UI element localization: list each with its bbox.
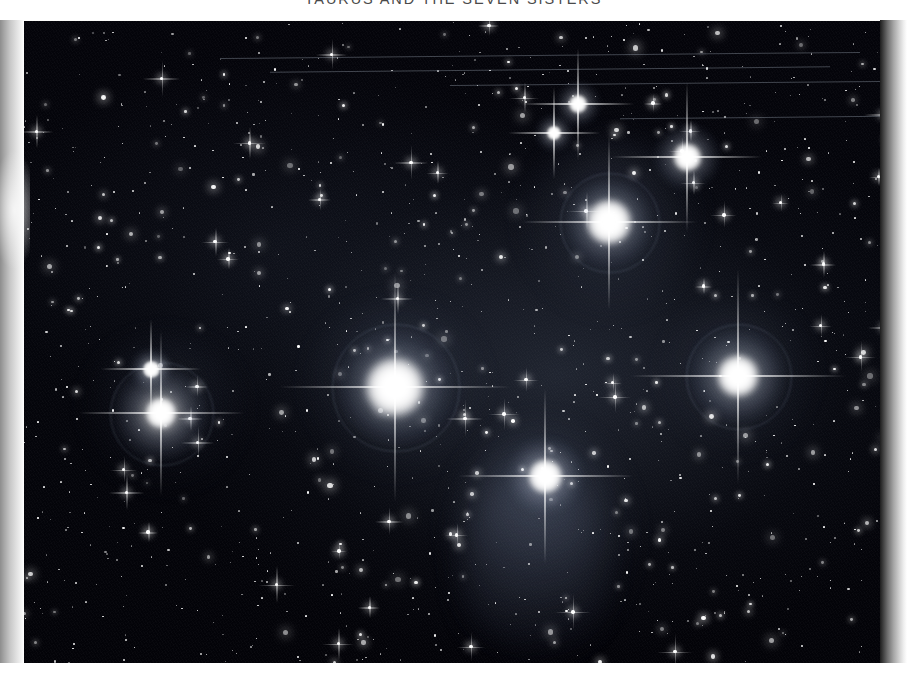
field-star bbox=[319, 205, 320, 206]
field-star bbox=[322, 584, 324, 586]
field-star bbox=[534, 186, 535, 187]
field-star bbox=[782, 326, 783, 327]
field-star bbox=[478, 104, 479, 105]
field-star bbox=[150, 125, 152, 127]
field-star bbox=[507, 61, 510, 64]
field-star bbox=[223, 419, 224, 420]
field-star bbox=[548, 447, 551, 450]
field-star bbox=[627, 549, 629, 551]
diffraction-spike bbox=[680, 183, 706, 185]
field-star bbox=[710, 51, 711, 52]
diffraction-spike bbox=[316, 54, 347, 56]
field-star bbox=[817, 361, 819, 363]
field-star bbox=[257, 271, 261, 275]
field-star bbox=[861, 350, 866, 355]
field-star bbox=[463, 409, 464, 410]
field-star bbox=[380, 653, 382, 655]
field-star bbox=[398, 447, 400, 449]
field-star-bright bbox=[275, 583, 278, 586]
field-star bbox=[704, 222, 706, 224]
field-star bbox=[530, 57, 531, 58]
field-star bbox=[486, 564, 487, 565]
field-star bbox=[613, 212, 614, 213]
field-star bbox=[404, 233, 405, 234]
scan-scratch bbox=[450, 81, 880, 86]
field-star bbox=[99, 339, 100, 340]
field-star bbox=[655, 582, 656, 583]
page-gutter-highlight-left bbox=[0, 150, 30, 270]
field-star bbox=[847, 588, 849, 590]
field-star bbox=[342, 44, 344, 46]
field-star bbox=[176, 104, 177, 105]
field-star bbox=[308, 65, 309, 66]
field-star bbox=[560, 452, 561, 453]
field-star bbox=[621, 94, 622, 95]
field-star bbox=[666, 303, 667, 304]
field-star bbox=[339, 543, 342, 546]
field-star bbox=[268, 373, 271, 376]
field-star bbox=[821, 336, 822, 337]
field-star bbox=[407, 614, 408, 615]
field-star-bright bbox=[584, 209, 587, 212]
field-star bbox=[327, 394, 329, 396]
field-star bbox=[766, 415, 767, 416]
field-star bbox=[117, 542, 118, 543]
field-star bbox=[346, 330, 348, 332]
field-star bbox=[258, 549, 260, 551]
field-star bbox=[123, 606, 124, 607]
field-star bbox=[161, 512, 163, 514]
diffraction-spike bbox=[615, 380, 617, 413]
field-star bbox=[513, 208, 518, 213]
field-star bbox=[793, 513, 794, 514]
field-star bbox=[295, 431, 296, 432]
field-star bbox=[559, 65, 560, 66]
field-star bbox=[211, 185, 216, 190]
field-star bbox=[585, 384, 586, 385]
field-star bbox=[422, 324, 425, 327]
field-star bbox=[488, 604, 489, 605]
atlas-diffraction-spike bbox=[612, 156, 762, 158]
field-star bbox=[176, 605, 177, 606]
diffraction-spike bbox=[109, 492, 144, 494]
field-star bbox=[764, 495, 765, 496]
field-star bbox=[766, 150, 768, 152]
field-star bbox=[328, 498, 330, 500]
field-star bbox=[458, 255, 460, 257]
field-star-bright bbox=[337, 642, 340, 645]
field-star bbox=[534, 325, 536, 327]
field-star bbox=[262, 147, 264, 149]
scan-scratch bbox=[270, 66, 830, 72]
field-star bbox=[341, 566, 344, 569]
field-star bbox=[306, 409, 308, 411]
field-star bbox=[860, 238, 862, 240]
field-star bbox=[269, 428, 270, 429]
field-star bbox=[496, 542, 497, 543]
field-star-bright bbox=[722, 213, 725, 216]
field-star bbox=[25, 120, 27, 122]
field-star bbox=[333, 138, 334, 139]
field-star bbox=[811, 450, 816, 455]
field-star bbox=[549, 498, 553, 502]
field-star bbox=[805, 538, 807, 540]
field-star bbox=[421, 163, 422, 164]
field-star bbox=[274, 68, 276, 70]
field-star bbox=[624, 478, 625, 479]
field-star bbox=[193, 273, 195, 275]
diffraction-spike bbox=[457, 647, 486, 649]
field-star bbox=[338, 99, 339, 100]
field-star bbox=[714, 612, 716, 614]
field-star bbox=[698, 203, 700, 205]
field-star bbox=[267, 570, 268, 571]
field-star bbox=[465, 223, 468, 226]
field-star bbox=[389, 339, 390, 340]
field-star bbox=[279, 410, 284, 415]
field-star bbox=[218, 421, 221, 424]
field-star bbox=[197, 408, 199, 410]
taygeta-core bbox=[146, 398, 176, 428]
field-star bbox=[408, 364, 409, 365]
field-star bbox=[242, 157, 243, 158]
celaeno-diffraction-spike bbox=[508, 132, 600, 134]
diffraction-spike bbox=[504, 398, 506, 430]
field-star bbox=[362, 659, 363, 660]
field-star bbox=[817, 576, 818, 577]
